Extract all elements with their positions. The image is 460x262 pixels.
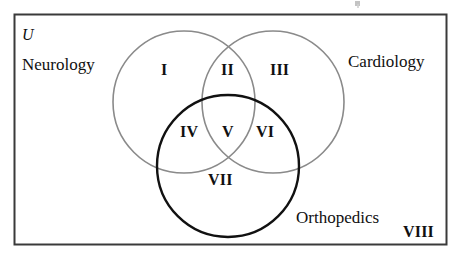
circle-neurology: [113, 31, 255, 173]
circle-orthopedics: [157, 95, 299, 237]
circle-cardiology: [202, 31, 344, 173]
region-label-iii: III: [270, 62, 289, 78]
venn-diagram-figure: U Neurology Cardiology Orthopedics I II …: [0, 0, 460, 262]
region-label-v: V: [222, 124, 234, 140]
region-label-iv: IV: [180, 124, 198, 140]
set-label-neurology: Neurology: [22, 56, 95, 73]
region-label-i: I: [161, 62, 167, 78]
region-label-ii: II: [221, 62, 234, 78]
universe-label: U: [22, 27, 34, 43]
region-label-viii: VIII: [403, 224, 434, 240]
set-label-orthopedics: Orthopedics: [296, 209, 379, 226]
region-label-vi: VI: [256, 124, 274, 140]
set-label-cardiology: Cardiology: [348, 53, 425, 70]
region-label-vii: VII: [208, 172, 233, 188]
